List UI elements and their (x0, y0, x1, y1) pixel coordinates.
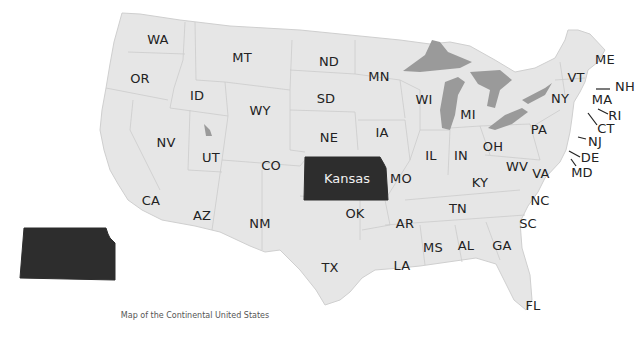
label-nd: ND (319, 54, 339, 69)
us-map: WA OR CA ID NV MT WY UT AZ CO NM ND SD N… (0, 0, 644, 343)
label-fl: FL (525, 298, 541, 313)
label-az: AZ (193, 208, 211, 223)
map-caption: Map of the Continental United States (121, 311, 269, 320)
label-wi: WI (415, 92, 432, 107)
label-ca: CA (142, 193, 160, 208)
label-ny: NY (551, 91, 569, 106)
kansas-inset (20, 228, 115, 280)
label-mt: MT (232, 50, 252, 65)
label-id: ID (190, 88, 204, 103)
label-ok: OK (345, 206, 364, 221)
label-de: DE (581, 150, 600, 165)
label-ga: GA (492, 238, 511, 253)
label-md: MD (571, 165, 593, 180)
label-oh: OH (483, 139, 503, 154)
label-ky: KY (472, 175, 488, 190)
label-mn: MN (368, 69, 389, 84)
label-nc: NC (530, 193, 549, 208)
label-mi: MI (460, 107, 475, 122)
label-vt: VT (567, 70, 584, 85)
label-nj: NJ (588, 134, 602, 149)
label-al: AL (458, 238, 475, 253)
label-il: IL (425, 148, 437, 163)
label-in: IN (454, 148, 468, 163)
label-sd: SD (317, 91, 336, 106)
label-ut: UT (202, 150, 220, 165)
label-nm: NM (249, 216, 270, 231)
label-ma: MA (592, 92, 613, 107)
label-wv: WV (506, 159, 528, 174)
label-tx: TX (320, 260, 338, 275)
label-ne: NE (320, 130, 338, 145)
label-co: CO (261, 158, 281, 173)
label-pa: PA (531, 122, 547, 137)
label-nv: NV (156, 135, 175, 150)
label-la: LA (394, 258, 411, 273)
label-wa: WA (147, 32, 168, 47)
label-ar: AR (396, 216, 414, 231)
label-me: ME (595, 52, 615, 67)
label-nh: NH (615, 79, 635, 94)
label-wy: WY (249, 103, 270, 118)
label-ms: MS (423, 240, 443, 255)
label-mo: MO (390, 171, 412, 186)
label-kansas: Kansas (324, 171, 370, 186)
label-sc: SC (519, 216, 537, 231)
label-va: VA (532, 166, 549, 181)
label-or: OR (130, 71, 150, 86)
label-ia: IA (375, 125, 388, 140)
label-tn: TN (448, 201, 467, 216)
